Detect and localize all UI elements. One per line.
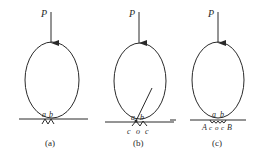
- contact-label-a: a: [212, 110, 216, 119]
- bottom-label-o: o: [136, 127, 140, 136]
- contact-label-a: a: [131, 113, 135, 122]
- elastic-ball: [114, 43, 166, 119]
- force-label: P: [40, 8, 47, 19]
- caption-a: (a): [45, 138, 55, 148]
- contact-label-a: a: [42, 110, 46, 119]
- panel-a: P a b (a): [19, 8, 88, 148]
- caption-b: (b): [133, 138, 144, 148]
- bottom-label-c2: c: [145, 127, 149, 136]
- contact-label-b: b: [220, 110, 224, 119]
- panel-b: P a b c o c (b): [105, 8, 174, 148]
- contact-label-b: b: [49, 110, 53, 119]
- bottom-label-o: o: [215, 124, 219, 132]
- bottom-label-c1: c: [127, 127, 131, 136]
- elastic-ball: [25, 42, 79, 118]
- bottom-label-c1: c: [209, 124, 213, 132]
- force-label: P: [128, 8, 135, 19]
- bottom-label-c2: c: [221, 124, 225, 132]
- panel-c: P a b A c o c B (c): [170, 8, 246, 148]
- bottom-label-A: A: [201, 123, 207, 132]
- bottom-label-B: B: [227, 123, 232, 132]
- contact-label-b: b: [140, 113, 144, 122]
- contact-diagram: P a b (a) P a b c o c (b) P a b A c o: [0, 0, 258, 161]
- caption-c: (c): [212, 138, 222, 148]
- force-label: P: [207, 8, 214, 19]
- elastic-ball: [192, 42, 244, 118]
- contact-hatch: [42, 119, 54, 124]
